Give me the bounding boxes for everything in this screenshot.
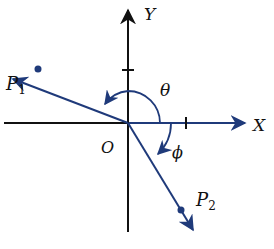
origin-label: O xyxy=(101,138,114,157)
vector-p2 xyxy=(128,123,193,230)
x-axis-label: X xyxy=(251,115,266,135)
point-p2-dot xyxy=(178,207,185,214)
vector-p1 xyxy=(13,79,128,123)
phi-arc xyxy=(158,123,171,154)
theta-label: θ xyxy=(160,80,170,100)
diagram-canvas: Y X O θ ϕ P1 P2 xyxy=(0,0,274,249)
point-p1-label: P1 xyxy=(5,73,26,97)
point-p1-dot xyxy=(35,66,42,73)
phi-label: ϕ xyxy=(172,143,183,162)
y-axis-label: Y xyxy=(144,4,157,24)
point-p2-label: P2 xyxy=(195,189,216,213)
